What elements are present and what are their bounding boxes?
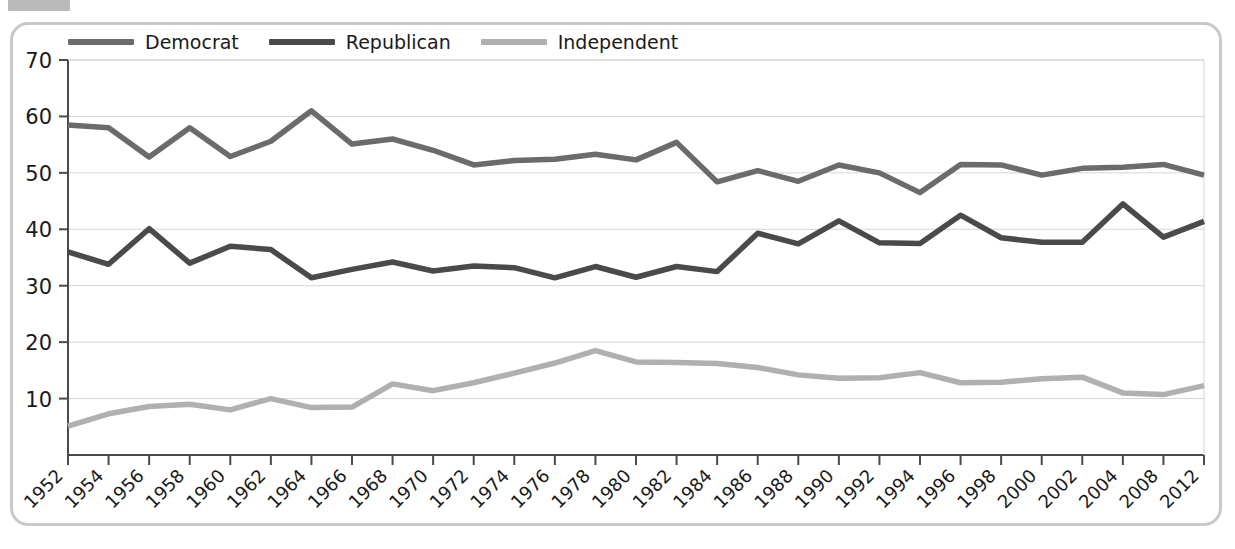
x-tick-label-1970: 1970 [385,465,432,512]
x-tick-label-1990: 1990 [790,465,837,512]
x-tick-label-1958: 1958 [141,465,188,512]
x-tick-label-2008: 2008 [1115,465,1162,512]
y-tick-label-40: 40 [25,218,52,242]
y-axis-tick-labels: 70605040302010 [25,49,52,412]
x-tick-label-1966: 1966 [304,465,351,512]
x-tick-label-1974: 1974 [466,465,513,512]
x-tick-label-1956: 1956 [101,465,148,512]
x-tick-label-1962: 1962 [222,465,269,512]
x-tick-label-1986: 1986 [709,465,756,512]
x-tick-label-1972: 1972 [425,465,472,512]
x-tick-label-1992: 1992 [831,465,878,512]
x-tick-label-1996: 1996 [912,465,959,512]
series-line-republican [68,204,1204,278]
x-tick-label-2004: 2004 [1074,465,1121,512]
series-line-independent [68,351,1204,427]
x-tick-label-2000: 2000 [993,465,1040,512]
x-tick-label-1978: 1978 [547,465,594,512]
y-tick-label-70: 70 [25,49,52,73]
x-tick-label-1976: 1976 [506,465,553,512]
data-series [68,111,1204,426]
x-tick-label-1952: 1952 [20,465,67,512]
line-chart-svg: 70605040302010 1952195419561958196019621… [0,0,1235,549]
x-tick-label-1984: 1984 [669,465,716,512]
x-tick-label-2002: 2002 [1034,465,1081,512]
x-tick-label-2012: 2012 [1156,465,1203,512]
x-tick-label-1982: 1982 [628,465,675,512]
chart-plot-area: 70605040302010 1952195419561958196019621… [0,0,1235,549]
y-tick-label-60: 60 [25,105,52,129]
x-tick-label-1980: 1980 [588,465,635,512]
x-tick-label-1988: 1988 [750,465,797,512]
x-tick-label-1960: 1960 [182,465,229,512]
x-axis-tick-labels: 1952195419561958196019621964196619681970… [20,455,1204,512]
y-tick-label-50: 50 [25,162,52,186]
x-tick-label-1954: 1954 [60,465,107,512]
y-tick-label-10: 10 [25,388,52,412]
x-tick-label-1968: 1968 [344,465,391,512]
x-tick-label-1964: 1964 [263,465,310,512]
gridlines [59,60,1204,399]
x-tick-label-1998: 1998 [953,465,1000,512]
chart-axes [68,60,1204,455]
series-line-democrat [68,111,1204,193]
y-tick-label-20: 20 [25,331,52,355]
x-tick-label-1994: 1994 [872,465,919,512]
y-tick-label-30: 30 [25,275,52,299]
